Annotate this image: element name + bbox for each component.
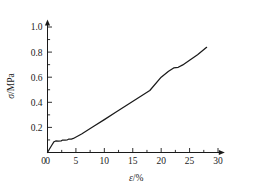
x-tick-label: 0: [45, 156, 50, 166]
y-axis-major-ticks: [48, 27, 53, 127]
stress-strain-curve: [48, 47, 207, 152]
x-axis-tick-labels: 0510152025300: [41, 156, 223, 166]
y-axis-title: σ/MPa: [6, 73, 16, 99]
x-axis: 0510152025300: [41, 148, 225, 166]
y-axis-tick-labels: 0.20.40.60.81.0: [31, 22, 43, 132]
y-tick-label: 0.6: [31, 73, 43, 83]
x-tick-label: 15: [128, 156, 138, 166]
x-tick-label: 10: [100, 156, 110, 166]
x-axis-arrow-icon: [219, 150, 225, 155]
chart-svg: 0.20.40.60.81.0 0510152025300 σ/MPa ε/%: [0, 0, 255, 196]
y-axis-arrow-icon: [45, 19, 50, 25]
origin-tick-label: 0: [41, 156, 46, 166]
data-series-group: [48, 47, 207, 152]
y-axis: 0.20.40.60.81.0: [31, 19, 52, 152]
x-tick-label: 5: [74, 156, 79, 166]
y-tick-label: 0.8: [31, 48, 43, 58]
x-tick-label: 25: [185, 156, 195, 166]
x-axis-title: ε/%: [129, 173, 143, 183]
x-tick-label: 20: [156, 156, 166, 166]
stress-strain-chart: 0.20.40.60.81.0 0510152025300 σ/MPa ε/%: [0, 0, 255, 196]
x-tick-label: 30: [213, 156, 223, 166]
y-tick-label: 1.0: [31, 22, 43, 32]
y-tick-label: 0.2: [31, 123, 43, 133]
y-tick-label: 0.4: [31, 98, 43, 108]
